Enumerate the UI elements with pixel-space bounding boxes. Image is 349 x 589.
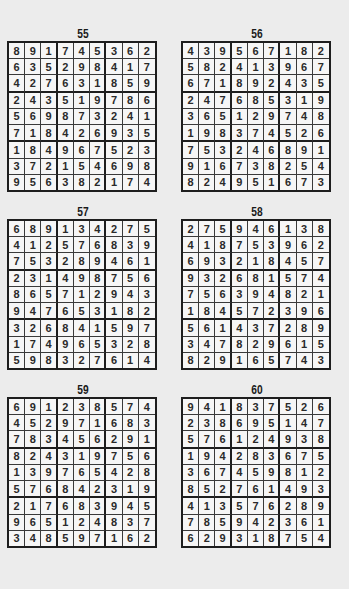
grid-cell: 2 [232, 449, 248, 465]
puzzle-title: 55 [18, 28, 147, 41]
grid-cell: 5 [74, 431, 90, 448]
grid-cell: 4 [25, 93, 41, 109]
grid-cell: 1 [74, 449, 90, 465]
grid-cell: 4 [297, 109, 313, 125]
grid-cell: 4 [58, 431, 74, 448]
grid-cell: 6 [74, 465, 90, 481]
grid-cell: 1 [313, 287, 329, 303]
sudoku-grid: 2759461384187539626932184579326815747563… [181, 219, 331, 370]
grid-cell: 4 [74, 481, 90, 498]
grid-cell: 6 [106, 353, 122, 368]
grid-cell: 7 [313, 415, 329, 431]
grid-cell: 2 [199, 175, 215, 190]
grid-cell: 7 [297, 449, 313, 465]
grid-cell: 8 [41, 125, 57, 142]
grid-cell: 6 [280, 337, 296, 353]
grid-cell: 1 [74, 93, 90, 109]
grid-cell: 9 [139, 75, 155, 92]
grid-cell: 7 [41, 303, 57, 320]
grid-cell: 2 [74, 515, 90, 531]
grid-cell: 4 [313, 271, 329, 287]
grid-cell: 3 [248, 320, 264, 336]
grid-cell: 8 [264, 531, 280, 546]
grid-cell: 9 [183, 399, 199, 415]
grid-cell: 5 [25, 253, 41, 270]
grid-cell: 8 [313, 109, 329, 125]
grid-cell: 1 [90, 320, 106, 336]
grid-cell: 9 [313, 320, 329, 336]
grid-cell: 4 [9, 75, 25, 92]
grid-cell: 6 [123, 253, 139, 270]
grid-cell: 1 [123, 59, 139, 75]
grid-cell: 2 [297, 287, 313, 303]
grid-cell: 8 [74, 175, 90, 190]
grid-cell: 7 [280, 109, 296, 125]
grid-cell: 5 [25, 175, 41, 190]
grid-cell: 5 [280, 271, 296, 287]
grid-cell: 2 [297, 125, 313, 142]
grid-cell: 5 [264, 415, 280, 431]
grid-cell: 2 [183, 415, 199, 431]
grid-cell: 1 [41, 399, 57, 415]
grid-cell: 2 [297, 399, 313, 415]
grid-cell: 8 [183, 175, 199, 190]
grid-cell: 7 [280, 353, 296, 368]
grid-cell: 8 [106, 515, 122, 531]
grid-cell: 9 [199, 253, 215, 270]
grid-cell: 3 [139, 415, 155, 431]
grid-cell: 4 [183, 237, 199, 253]
grid-cell: 4 [41, 449, 57, 465]
grid-cell: 4 [264, 287, 280, 303]
grid-cell: 7 [9, 125, 25, 142]
grid-cell: 5 [183, 320, 199, 336]
grid-cell: 4 [9, 237, 25, 253]
grid-cell: 8 [139, 337, 155, 353]
grid-cell: 2 [264, 75, 280, 92]
grid-cell: 1 [199, 159, 215, 175]
grid-cell: 6 [248, 43, 264, 59]
grid-cell: 6 [280, 449, 296, 465]
grid-cell: 2 [41, 237, 57, 253]
grid-cell: 2 [58, 253, 74, 270]
grid-cell: 2 [9, 498, 25, 514]
grid-cell: 1 [280, 43, 296, 59]
grid-cell: 3 [25, 271, 41, 287]
grid-cell: 8 [280, 465, 296, 481]
grid-cell: 2 [280, 320, 296, 336]
grid-cell: 3 [215, 498, 231, 514]
grid-cell: 5 [313, 337, 329, 353]
grid-cell: 1 [74, 287, 90, 303]
grid-cell: 7 [199, 221, 215, 237]
grid-cell: 4 [74, 43, 90, 59]
grid-cell: 6 [41, 320, 57, 336]
grid-cell: 8 [248, 93, 264, 109]
grid-cell: 2 [58, 399, 74, 415]
grid-cell: 9 [215, 353, 231, 368]
grid-cell: 3 [58, 449, 74, 465]
grid-cell: 8 [25, 431, 41, 448]
grid-cell: 7 [183, 515, 199, 531]
grid-cell: 5 [25, 415, 41, 431]
grid-cell: 2 [199, 531, 215, 546]
grid-cell: 5 [139, 498, 155, 514]
puzzle-title: 59 [18, 384, 147, 397]
grid-cell: 2 [199, 353, 215, 368]
grid-cell: 8 [74, 498, 90, 514]
grid-cell: 3 [183, 109, 199, 125]
grid-cell: 6 [313, 399, 329, 415]
grid-cell: 9 [41, 465, 57, 481]
grid-cell: 5 [123, 271, 139, 287]
grid-cell: 8 [297, 43, 313, 59]
grid-cell: 6 [199, 320, 215, 336]
grid-cell: 7 [215, 93, 231, 109]
grid-cell: 4 [232, 59, 248, 75]
grid-cell: 3 [106, 43, 122, 59]
grid-cell: 2 [123, 142, 139, 158]
grid-cell: 2 [9, 93, 25, 109]
grid-cell: 5 [232, 498, 248, 514]
grid-cell: 1 [123, 353, 139, 368]
grid-cell: 6 [297, 237, 313, 253]
grid-cell: 9 [123, 320, 139, 336]
grid-cell: 6 [264, 498, 280, 514]
grid-cell: 1 [248, 531, 264, 546]
